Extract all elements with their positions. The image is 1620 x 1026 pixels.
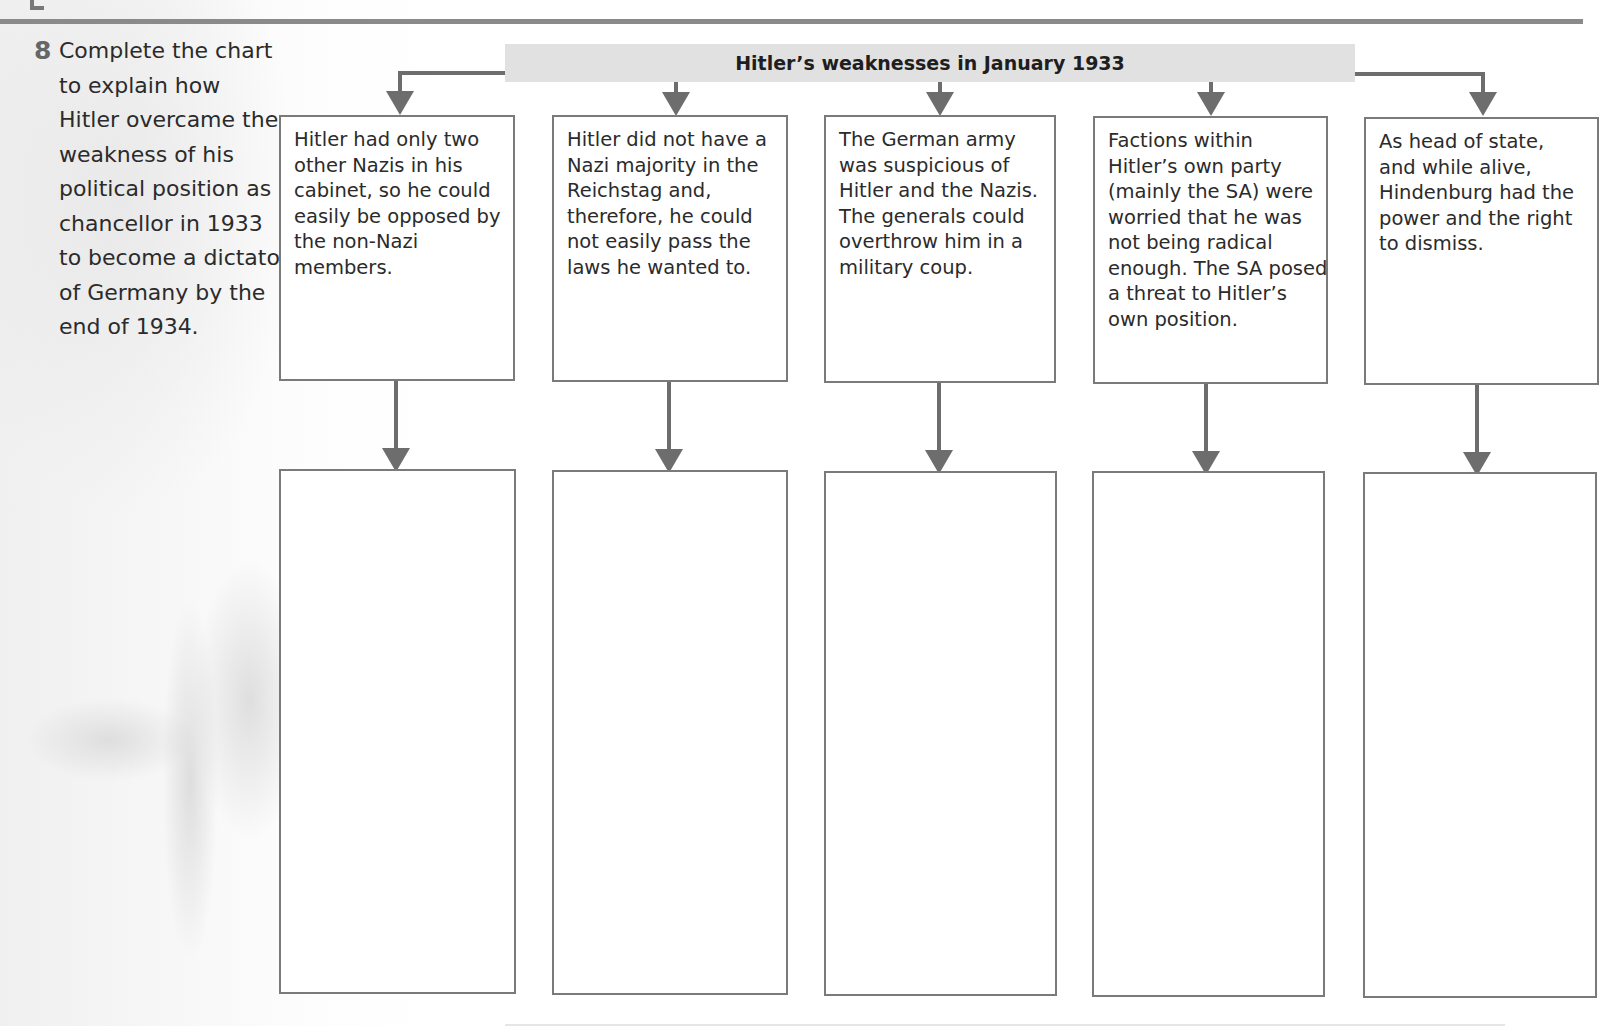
box-line: The German army <box>839 127 1042 153</box>
connector-line <box>1204 384 1208 454</box>
weakness-box-reichstag: Hitler did not have a Nazi majority in t… <box>552 115 788 382</box>
box-line: cabinet, so he could <box>294 178 501 204</box>
box-line: Factions within <box>1108 128 1314 154</box>
question-line: Hitler overcame the <box>59 103 274 138</box>
box-line: enough. The SA posed <box>1108 256 1314 282</box>
weakness-box-hindenburg: As head of state, and while alive, Hinde… <box>1364 117 1599 385</box>
question-line: political position as <box>59 172 274 207</box>
connector-line <box>394 381 398 451</box>
arrow-down-icon <box>662 92 690 116</box>
box-line: members. <box>294 255 501 281</box>
box-line: not easily pass the <box>567 229 774 255</box>
question-line: chancellor in 1933 <box>59 207 274 242</box>
question-line: to become a dictator <box>59 241 274 276</box>
box-line: Nazi majority in the <box>567 153 774 179</box>
page-corner-mark <box>30 0 44 10</box>
box-line: and while alive, <box>1379 155 1585 181</box>
connector-line <box>937 383 941 453</box>
answer-box-4[interactable] <box>1092 471 1325 997</box>
box-line: Hitler and the Nazis. <box>839 178 1042 204</box>
answer-text <box>826 473 1055 483</box>
question-line: of Germany by the <box>59 276 274 311</box>
weakness-box-sa-factions: Factions within Hitler’s own party (main… <box>1093 116 1328 384</box>
connector-line <box>1355 72 1485 76</box>
box-line: overthrow him in a <box>839 229 1042 255</box>
question-line: weakness of his <box>59 138 274 173</box>
answer-text <box>281 471 514 481</box>
answer-box-5[interactable] <box>1363 472 1597 998</box>
question-line: to explain how <box>59 69 274 104</box>
box-line: was suspicious of <box>839 153 1042 179</box>
box-line: a threat to Hitler’s <box>1108 281 1314 307</box>
box-line: The generals could <box>839 204 1042 230</box>
connector-line <box>398 71 402 93</box>
answer-box-3[interactable] <box>824 471 1057 996</box>
box-line: laws he wanted to. <box>567 255 774 281</box>
box-line: Reichstag and, <box>567 178 774 204</box>
box-line: As head of state, <box>1379 129 1585 155</box>
weakness-box-army: The German army was suspicious of Hitler… <box>824 115 1056 383</box>
box-line: easily be opposed by <box>294 204 501 230</box>
answer-box-2[interactable] <box>552 470 788 995</box>
arrow-down-icon <box>1197 92 1225 116</box>
question-line: end of 1934. <box>59 310 274 345</box>
box-line: (mainly the SA) were <box>1108 179 1314 205</box>
answer-text <box>1094 473 1323 483</box>
box-line: own position. <box>1108 307 1314 333</box>
box-line: to dismiss. <box>1379 231 1585 257</box>
question-number: 8 <box>34 34 51 69</box>
connector-line <box>1481 72 1485 94</box>
arrow-down-icon <box>1469 92 1497 116</box>
answer-text <box>1365 474 1595 484</box>
question-prompt: 8 Complete the chart to explain how Hitl… <box>34 34 274 345</box>
arrow-down-icon <box>926 92 954 116</box>
question-line: Complete the chart <box>59 34 274 69</box>
box-line: power and the right <box>1379 206 1585 232</box>
box-line: therefore, he could <box>567 204 774 230</box>
box-line: Hitler’s own party <box>1108 154 1314 180</box>
box-line: Hitler had only two <box>294 127 501 153</box>
arrow-down-icon <box>386 91 414 115</box>
box-line: Hitler did not have a <box>567 127 774 153</box>
answer-text <box>554 472 786 482</box>
box-line: worried that he was <box>1108 205 1314 231</box>
connector-line <box>667 382 671 452</box>
connector-line <box>1475 385 1479 455</box>
connector-line <box>398 71 505 75</box>
box-line: other Nazis in his <box>294 153 501 179</box>
top-divider <box>0 19 1583 24</box>
weakness-box-cabinet: Hitler had only two other Nazis in his c… <box>279 115 515 381</box>
chart-title: Hitler’s weaknesses in January 1933 <box>505 44 1355 82</box>
box-line: Hindenburg had the <box>1379 180 1585 206</box>
box-line: military coup. <box>839 255 1042 281</box>
box-line: the non-Nazi <box>294 229 501 255</box>
answer-box-1[interactable] <box>279 469 516 994</box>
box-line: not being radical <box>1108 230 1314 256</box>
